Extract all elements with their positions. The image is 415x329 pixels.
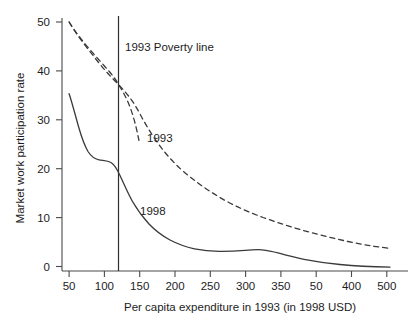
y-axis-tick-labels: 0 10 20 30 40 50 [37, 16, 50, 273]
y-tick-label-30: 30 [37, 114, 50, 126]
y-tick-label-0: 0 [44, 261, 50, 273]
series-label-1998: 1998 [140, 205, 166, 217]
y-axis-title: Market work participation rate [14, 73, 26, 224]
x-tick-label-400: 50 [310, 280, 323, 292]
poverty-line-label: 1993 Poverty line [125, 41, 214, 53]
x-tick-label-350: 350 [271, 280, 290, 292]
series-curve-1993-main [69, 22, 390, 248]
y-axis-ticks [56, 22, 62, 267]
x-tick-label-150: 150 [130, 280, 149, 292]
y-tick-label-10: 10 [37, 212, 50, 224]
chart-figure: 0 10 20 30 40 50 50 100 150 200 250 [0, 0, 415, 329]
series-label-1993: 1993 [147, 132, 173, 144]
x-tick-label-250: 250 [201, 280, 220, 292]
x-tick-label-100: 100 [95, 280, 114, 292]
x-axis-title: Per capita expenditure in 1993 (in 1998 … [124, 301, 356, 313]
x-tick-label-200: 200 [165, 280, 184, 292]
y-tick-label-40: 40 [37, 65, 50, 77]
x-axis-tick-labels: 50 100 150 200 250 300 350 50 400 500 [63, 280, 397, 292]
series-curve-1998 [69, 94, 390, 268]
x-tick-label-50: 50 [63, 280, 76, 292]
x-tick-label-450: 400 [342, 280, 361, 292]
x-axis-ticks [69, 271, 387, 277]
chart-plot-area: 0 10 20 30 40 50 50 100 150 200 250 [0, 0, 415, 329]
y-tick-label-20: 20 [37, 163, 50, 175]
y-tick-label-50: 50 [37, 16, 50, 28]
x-tick-label-500: 500 [377, 280, 396, 292]
x-tick-label-300: 300 [236, 280, 255, 292]
